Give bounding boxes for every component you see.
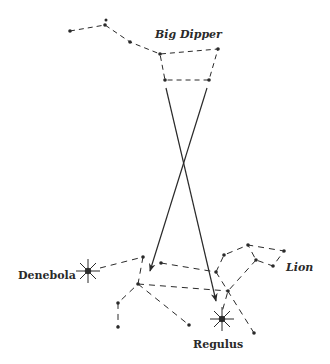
label-denebola: Denebola — [18, 269, 76, 282]
arrow-to-denebola-line — [150, 88, 207, 271]
regulus-star-icon — [210, 307, 234, 331]
pointer-arrows — [150, 88, 216, 301]
lion-stars — [116, 243, 286, 335]
lion-constellation — [100, 245, 284, 333]
label-big-dipper: Big Dipper — [154, 28, 223, 41]
denebola-star-icon — [76, 259, 100, 283]
label-lion: Lion — [285, 261, 313, 274]
star-chart: Big Dipper Lion Denebola Regulus — [0, 0, 330, 364]
label-regulus: Regulus — [193, 338, 243, 351]
